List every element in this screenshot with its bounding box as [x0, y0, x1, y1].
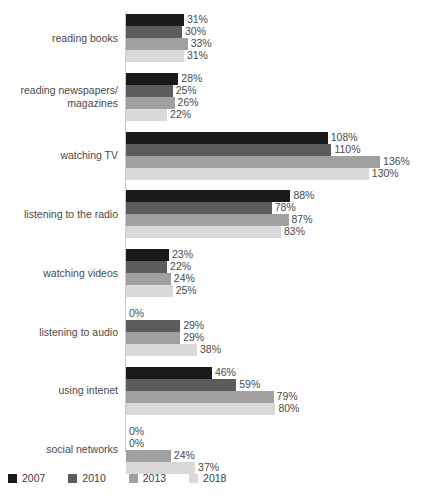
- bar-2013-5[interactable]: [126, 332, 180, 344]
- bar-2018-1[interactable]: [126, 109, 167, 121]
- category-label: social networks: [0, 426, 118, 474]
- category-bars: 46%59%79%80%: [126, 367, 426, 415]
- bar-value-label: 22%: [167, 108, 191, 121]
- bar-row: 31%: [126, 14, 426, 26]
- category-bars: 28%25%26%22%: [126, 73, 426, 121]
- category-bars: 31%30%33%31%: [126, 14, 426, 62]
- legend-label: 2010: [82, 472, 105, 484]
- category-bars: 0%0%24%37%: [126, 426, 426, 474]
- bar-value-label: 0%: [126, 437, 144, 450]
- legend-swatch-icon: [189, 474, 198, 483]
- chart-legend: 2007201020132018: [8, 468, 249, 488]
- bar-2018-0[interactable]: [126, 50, 184, 62]
- legend-swatch-icon: [68, 474, 77, 483]
- bar-2018-4[interactable]: [126, 285, 173, 297]
- bar-2013-7[interactable]: [126, 450, 171, 462]
- bar-2013-0[interactable]: [126, 38, 188, 50]
- bar-row: 130%: [126, 168, 426, 180]
- legend-item-2018[interactable]: 2018: [189, 472, 226, 484]
- bar-row: 29%: [126, 320, 426, 332]
- legend-item-2007[interactable]: 2007: [8, 472, 45, 484]
- category-label: reading newspapers/ magazines: [0, 73, 118, 121]
- category-bars: 108%110%136%130%: [126, 132, 426, 180]
- bar-row: 38%: [126, 344, 426, 356]
- bar-row: 33%: [126, 38, 426, 50]
- bar-row: 25%: [126, 85, 426, 97]
- bar-2007-2[interactable]: [126, 132, 328, 144]
- bar-2007-6[interactable]: [126, 367, 212, 379]
- bar-group: watching TV108%110%136%130%: [0, 132, 426, 180]
- bar-row: 29%: [126, 332, 426, 344]
- bar-group: reading newspapers/ magazines28%25%26%22…: [0, 73, 426, 121]
- bar-value-label: 80%: [275, 402, 299, 415]
- plot-area: reading books31%30%33%31%reading newspap…: [0, 0, 426, 455]
- bar-value-label: 31%: [184, 49, 208, 62]
- bar-value-label: 38%: [197, 343, 221, 356]
- bar-2007-1[interactable]: [126, 73, 178, 85]
- category-label: watching videos: [0, 249, 118, 297]
- category-bars: 0%29%29%38%: [126, 308, 426, 356]
- bar-value-label: 110%: [331, 143, 360, 156]
- legend-swatch-icon: [129, 474, 138, 483]
- bar-group: listening to audio0%29%29%38%: [0, 308, 426, 356]
- legend-label: 2013: [143, 472, 166, 484]
- bar-2010-2[interactable]: [126, 144, 331, 156]
- bar-2010-0[interactable]: [126, 26, 182, 38]
- bar-group: reading books31%30%33%31%: [0, 14, 426, 62]
- bar-value-label: 0%: [126, 307, 144, 320]
- bar-row: 28%: [126, 73, 426, 85]
- bar-row: 108%: [126, 132, 426, 144]
- bar-row: 24%: [126, 450, 426, 462]
- bar-group: social networks0%0%24%37%: [0, 426, 426, 474]
- legend-item-2013[interactable]: 2013: [129, 472, 166, 484]
- bar-2007-3[interactable]: [126, 190, 290, 202]
- legend-label: 2007: [22, 472, 45, 484]
- bar-value-label: 83%: [281, 225, 305, 238]
- bar-2018-5[interactable]: [126, 344, 197, 356]
- category-label: listening to audio: [0, 308, 118, 356]
- legend-swatch-icon: [8, 474, 17, 483]
- bar-2010-1[interactable]: [126, 85, 173, 97]
- bar-row: 22%: [126, 109, 426, 121]
- bar-2013-2[interactable]: [126, 156, 380, 168]
- bar-chart: reading books31%30%33%31%reading newspap…: [0, 0, 426, 497]
- bar-row: 87%: [126, 214, 426, 226]
- bar-2018-3[interactable]: [126, 226, 281, 238]
- category-bars: 23%22%24%25%: [126, 249, 426, 297]
- bar-group: using intenet46%59%79%80%: [0, 367, 426, 415]
- bar-group: watching videos23%22%24%25%: [0, 249, 426, 297]
- bar-2007-0[interactable]: [126, 14, 184, 26]
- category-label: watching TV: [0, 132, 118, 180]
- bar-2013-6[interactable]: [126, 391, 274, 403]
- bar-value-label: 130%: [369, 167, 399, 180]
- bar-row: 31%: [126, 50, 426, 62]
- bar-row: 0%: [126, 426, 426, 438]
- bar-2013-3[interactable]: [126, 214, 289, 226]
- bar-row: 24%: [126, 273, 426, 285]
- bar-2018-2[interactable]: [126, 168, 369, 180]
- legend-label: 2018: [203, 472, 226, 484]
- bar-value-label: 59%: [236, 378, 260, 391]
- category-label: using intenet: [0, 367, 118, 415]
- bar-value-label: 46%: [212, 366, 236, 379]
- category-bars: 88%78%87%83%: [126, 190, 426, 238]
- category-label: reading books: [0, 14, 118, 62]
- bar-value-label: 24%: [171, 449, 195, 462]
- bar-row: 46%: [126, 367, 426, 379]
- bar-2007-4[interactable]: [126, 249, 169, 261]
- bar-2018-6[interactable]: [126, 403, 275, 415]
- bar-2010-4[interactable]: [126, 261, 167, 273]
- bar-2010-3[interactable]: [126, 202, 272, 214]
- bar-row: 80%: [126, 403, 426, 415]
- bar-row: 78%: [126, 202, 426, 214]
- bar-2013-4[interactable]: [126, 273, 171, 285]
- bar-2010-5[interactable]: [126, 320, 180, 332]
- bar-row: 83%: [126, 226, 426, 238]
- bar-value-label: 25%: [173, 284, 197, 297]
- bar-row: 0%: [126, 308, 426, 320]
- category-label: listening to the radio: [0, 190, 118, 238]
- bar-row: 25%: [126, 285, 426, 297]
- bar-group: listening to the radio88%78%87%83%: [0, 190, 426, 238]
- legend-item-2010[interactable]: 2010: [68, 472, 105, 484]
- bar-2010-6[interactable]: [126, 379, 236, 391]
